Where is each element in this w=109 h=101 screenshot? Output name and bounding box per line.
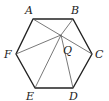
hexagon-outline <box>16 19 92 88</box>
hexagon-diagram: A B C D E F Q <box>0 0 109 101</box>
label-a: A <box>24 4 33 17</box>
label-q: Q <box>63 44 72 57</box>
segment-qf <box>16 35 61 54</box>
label-f: F <box>3 48 12 61</box>
segment-qd <box>61 35 73 88</box>
label-c: C <box>95 48 104 61</box>
segment-bq <box>61 19 73 35</box>
label-d: D <box>68 90 78 101</box>
label-e: E <box>25 90 34 101</box>
label-b: B <box>70 4 79 17</box>
segment-qe <box>35 35 61 88</box>
